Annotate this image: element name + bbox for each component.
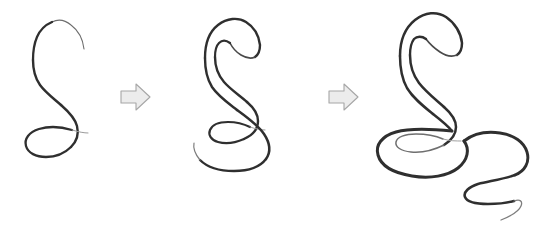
s-curve-group — [26, 20, 88, 157]
arrow-step-2-to-3: next step — [326, 79, 362, 115]
step-1-basic-s-curve: Step 1: basic S-curve guideline — [0, 0, 120, 229]
s-curve-head-taper — [52, 20, 84, 49]
coil-cross-right — [464, 132, 528, 175]
arrow-step-1-to-2: next step — [118, 79, 154, 115]
cobra-complete-group — [377, 13, 528, 220]
cobra-outline-group — [194, 19, 269, 171]
s-curve-middle-diagonal — [61, 105, 78, 147]
tail-tip — [194, 143, 200, 160]
throat-curve — [215, 41, 230, 57]
outer-coil-sweep — [200, 159, 266, 171]
step-1-drawing: Step 1: basic S-curve guideline — [0, 0, 120, 229]
tail-whip — [465, 175, 515, 204]
step-3-complete-cobra: Step 3: finished cobra with coiled body … — [372, 0, 556, 229]
throat-curve — [410, 37, 426, 55]
body-outer-edge — [400, 56, 433, 114]
step-2-head-and-body: Step 2: cobra head, hood and body outlin… — [178, 0, 306, 229]
cobra-drawing-tutorial-strip: Step 1: basic S-curve guideline next ste… — [0, 0, 556, 229]
s-curve-tail-taper — [72, 130, 88, 133]
s-curve-bottom-loop — [26, 127, 72, 157]
s-curve-left-flank — [33, 60, 61, 105]
right-arrow-shape — [121, 84, 150, 110]
right-arrow-shape — [329, 84, 358, 110]
snout-taper — [230, 43, 255, 58]
head-top-arc — [205, 19, 260, 58]
right-arrow-icon: next step — [118, 79, 154, 115]
inner-coil-loop — [209, 122, 250, 143]
inner-coil-faint — [396, 134, 444, 152]
step-2-drawing: Step 2: cobra head, hood and body outlin… — [178, 0, 306, 229]
snout-taper — [426, 39, 457, 56]
s-curve-top-arc — [33, 22, 52, 60]
body-outer-edge — [205, 58, 237, 110]
step-3-drawing: Step 3: finished cobra with coiled body … — [372, 0, 556, 229]
right-arrow-icon: next step — [326, 79, 362, 115]
